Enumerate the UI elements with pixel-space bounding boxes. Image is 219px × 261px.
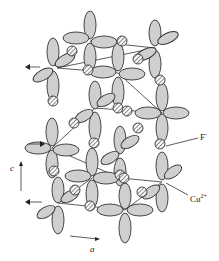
axis-a-label: a	[90, 244, 95, 254]
cu-orbitals	[25, 11, 189, 243]
axis-c-label: c	[10, 163, 14, 173]
cu-ion-label: Cu2+	[190, 193, 207, 204]
f-ion-label: F-	[200, 131, 207, 142]
crystal-structure-diagram	[0, 0, 219, 261]
